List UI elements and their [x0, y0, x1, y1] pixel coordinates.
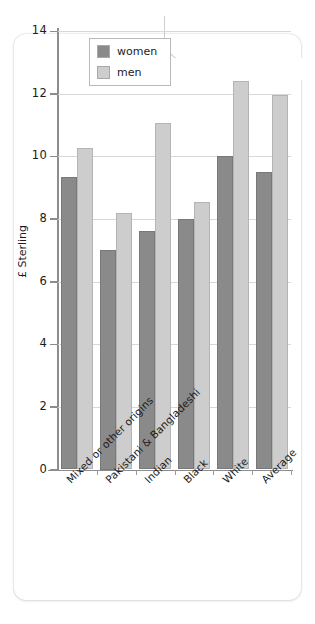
y-tick-mark-2 — [50, 406, 57, 408]
legend-swatch-men — [97, 66, 110, 79]
y-tick-label-10: 10 — [17, 150, 47, 162]
y-tick-mark-12 — [50, 93, 57, 95]
y-tick-label-12: 12 — [17, 88, 47, 100]
legend-label-men: men — [117, 66, 141, 79]
x-tick-mark-3 — [213, 470, 214, 475]
bar-men-4 — [233, 81, 249, 469]
bar-women-5 — [256, 172, 272, 470]
y-tick-label-4: 4 — [17, 338, 47, 350]
y-tick-label-14: 14 — [17, 25, 47, 37]
y-tick-mark-4 — [50, 344, 57, 346]
y-tick-mark-6 — [50, 281, 57, 283]
bar-women-3 — [178, 219, 194, 470]
x-tick-mark-4 — [252, 470, 253, 475]
y-axis-title: £ Sterling — [16, 207, 29, 297]
chart-legend: womenmen — [89, 38, 171, 86]
legend-item-women: women — [97, 45, 157, 58]
y-tick-label-2: 2 — [17, 401, 47, 413]
gridline-14 — [58, 31, 291, 32]
x-tick-mark-5 — [291, 470, 292, 475]
y-tick-label-0: 0 — [17, 464, 47, 476]
y-tick-mark-14 — [50, 31, 57, 33]
x-tick-mark-2 — [175, 470, 176, 475]
y-tick-mark-0 — [50, 469, 57, 471]
legend-swatch-women — [97, 45, 110, 58]
gridline-12 — [58, 94, 291, 95]
bar-men-0 — [77, 148, 93, 469]
bar-men-3 — [194, 202, 210, 470]
grouped-bar-chart: 02468101214 £ Sterling Mixed or other or… — [0, 0, 315, 624]
bar-women-4 — [217, 156, 233, 469]
bar-women-0 — [61, 177, 77, 470]
x-tick-mark-1 — [136, 470, 137, 475]
y-tick-mark-8 — [50, 218, 57, 220]
legend-item-men: men — [97, 66, 141, 79]
legend-label-women: women — [117, 45, 157, 58]
bar-men-5 — [272, 95, 288, 469]
x-tick-mark-0 — [97, 470, 98, 475]
y-tick-mark-10 — [50, 156, 57, 158]
